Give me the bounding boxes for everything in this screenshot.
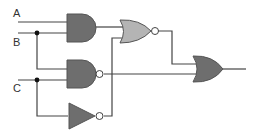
nor-gate-icon [120, 20, 151, 43]
and-gate-icon [67, 14, 96, 42]
logic-circuit-diagram: A B C [0, 0, 258, 136]
junction-dot-b [35, 31, 40, 36]
not-inversion-bubble-icon [96, 113, 103, 120]
circuit-svg [0, 0, 258, 136]
junction-dot-c [35, 78, 40, 83]
wire-b-to-nand [37, 33, 68, 69]
nand-inversion-bubble-icon [96, 71, 103, 78]
or-gate-icon [193, 56, 223, 82]
not-gate-icon [69, 103, 95, 129]
wire-c-to-not [37, 80, 68, 116]
nand-gate-icon [67, 60, 96, 88]
wire-not-to-nor [104, 38, 123, 116]
wire-nor-to-or [157, 31, 198, 64]
nor-inversion-bubble-icon [152, 28, 159, 35]
